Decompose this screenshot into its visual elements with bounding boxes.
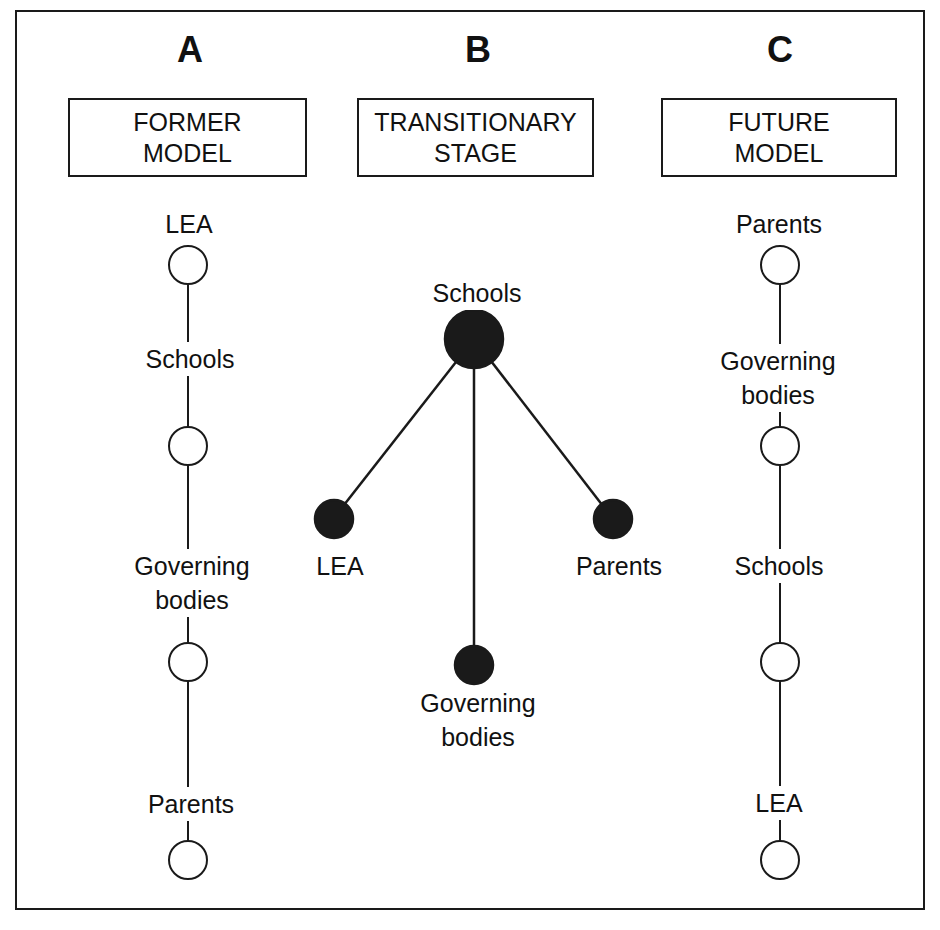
column-a-letter: A: [150, 28, 230, 72]
column-a-title: FORMER MODEL: [68, 98, 307, 177]
column-c-letter: C: [740, 28, 820, 72]
column-b-letter: B: [438, 28, 518, 72]
label-b-governing-bodies: Governing bodies: [418, 686, 537, 754]
label-a-lea: LEA: [163, 207, 214, 241]
label-c-parents: Parents: [734, 207, 824, 241]
label-b-parents: Parents: [574, 549, 664, 583]
label-a-parents: Parents: [146, 787, 236, 821]
column-b-title: TRANSITIONARY STAGE: [357, 98, 594, 177]
label-c-schools: Schools: [733, 549, 826, 583]
label-a-schools: Schools: [144, 342, 237, 376]
label-c-governing-bodies: Governing bodies: [718, 344, 837, 412]
label-b-lea: LEA: [314, 549, 365, 583]
label-a-governing-bodies: Governing bodies: [132, 549, 251, 617]
column-c-title: FUTURE MODEL: [661, 98, 897, 177]
label-b-schools: Schools: [431, 276, 524, 310]
label-c-lea: LEA: [753, 786, 804, 820]
